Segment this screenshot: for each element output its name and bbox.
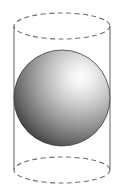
figure-canvas: Sphere inscribed in a cylinder (0, 0, 125, 188)
sphere-in-cylinder-diagram (0, 0, 125, 188)
sphere-body (14, 50, 110, 146)
sphere-shape (14, 50, 110, 146)
